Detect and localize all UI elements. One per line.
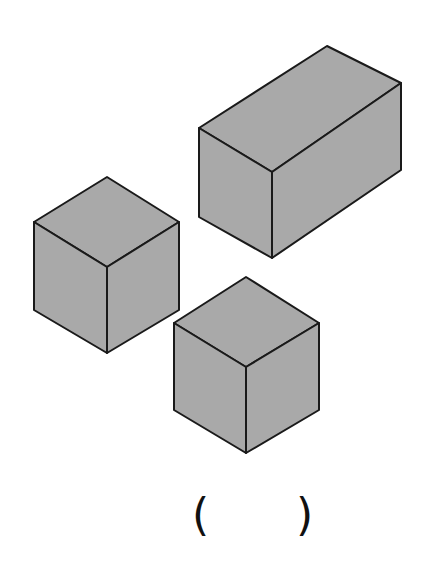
open-parenthesis: ( xyxy=(192,493,209,537)
rectangular-prism xyxy=(199,46,401,258)
cube-left xyxy=(34,177,179,353)
answer-value[interactable] xyxy=(220,495,300,535)
cube-bottom xyxy=(174,277,319,453)
close-parenthesis: ) xyxy=(296,493,313,537)
solids-figure xyxy=(0,0,436,569)
